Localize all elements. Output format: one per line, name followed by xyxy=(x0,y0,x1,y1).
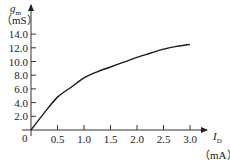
x-tick-label: 3.0 xyxy=(183,133,197,145)
x-tick-label: 1.5 xyxy=(104,133,118,145)
y-axis-unit: （mS） xyxy=(1,15,38,26)
y-tick-label: 14.0 xyxy=(9,28,29,40)
y-ticks: 2.04.06.08.010.012.014.0 xyxy=(9,28,36,122)
x-axis-unit: （mA） xyxy=(199,150,230,161)
origin-label: 0 xyxy=(22,132,28,144)
y-tick-label: 6.0 xyxy=(14,83,28,95)
axes xyxy=(22,5,207,136)
gm-curve xyxy=(31,44,190,130)
x-tick-label: 0.5 xyxy=(51,133,65,145)
x-tick-label: 2.5 xyxy=(157,133,171,145)
y-tick-label: 10.0 xyxy=(9,56,29,68)
y-tick-label: 12.0 xyxy=(9,42,29,54)
x-axis-symbol: ID xyxy=(213,131,222,145)
x-tick-label: 1.0 xyxy=(77,133,91,145)
y-tick-label: 8.0 xyxy=(14,69,28,81)
y-tick-label: 4.0 xyxy=(14,97,28,109)
x-ticks: 0.51.01.52.02.53.0 xyxy=(51,125,198,145)
x-tick-label: 2.0 xyxy=(130,133,144,145)
y-tick-label: 2.0 xyxy=(14,110,28,122)
